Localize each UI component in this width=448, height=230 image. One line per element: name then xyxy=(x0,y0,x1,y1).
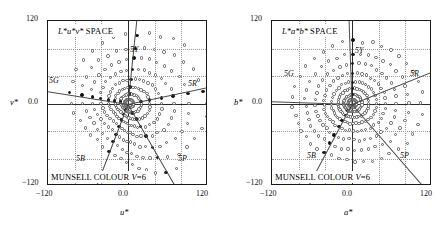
data-point xyxy=(90,66,93,69)
data-point xyxy=(305,135,308,138)
data-point xyxy=(380,157,383,160)
data-point xyxy=(421,90,424,93)
data-point xyxy=(111,128,114,131)
data-point xyxy=(328,84,331,87)
data-point xyxy=(381,59,384,62)
data-point xyxy=(148,57,151,60)
data-point xyxy=(81,102,84,105)
data-point xyxy=(352,138,355,141)
data-point xyxy=(118,135,121,138)
data-point xyxy=(175,167,178,170)
data-point xyxy=(373,145,376,148)
panel-title-symbol: L*a*b* xyxy=(282,26,308,36)
data-point xyxy=(360,72,363,75)
hue-label-5y: 5Y xyxy=(130,45,138,54)
data-point xyxy=(143,46,146,49)
data-point xyxy=(341,74,344,77)
plot-area-lab: 5Y5R5G5B5P L*a*b* SPACE MUNSELL COLOUR V… xyxy=(271,20,431,185)
data-point xyxy=(325,126,328,129)
xaxis-label-luv: u* xyxy=(120,207,129,217)
data-point xyxy=(200,127,203,130)
data-point xyxy=(90,88,93,91)
data-point xyxy=(348,128,351,131)
data-point xyxy=(322,99,325,102)
data-point xyxy=(157,92,160,95)
data-point xyxy=(148,31,151,34)
data-point xyxy=(88,116,91,119)
data-point xyxy=(353,160,356,163)
xtick-min-luv: −120 xyxy=(36,189,53,198)
data-point xyxy=(383,96,386,99)
data-point xyxy=(346,72,349,75)
data-point xyxy=(367,147,370,150)
data-point xyxy=(314,110,317,113)
data-point xyxy=(103,122,106,125)
data-point xyxy=(133,142,136,145)
data-point xyxy=(159,35,162,38)
data-point xyxy=(96,128,99,131)
data-point xyxy=(131,163,134,166)
data-point xyxy=(369,77,372,80)
data-point xyxy=(375,106,378,109)
data-point xyxy=(130,152,133,155)
data-point xyxy=(125,79,128,82)
data-point xyxy=(125,151,128,154)
data-point xyxy=(407,111,410,114)
data-point xyxy=(389,48,392,51)
data-point xyxy=(398,126,401,129)
data-point xyxy=(335,57,338,60)
data-point xyxy=(379,130,382,133)
data-point xyxy=(121,79,124,82)
data-point xyxy=(93,80,96,83)
plot-area-luv: 5Y5R5G5B5P L*u*v* SPACE MUNSELL COLOUR V… xyxy=(47,20,207,185)
data-point xyxy=(146,81,149,84)
yaxis-label-luv: v* xyxy=(10,97,18,107)
data-point xyxy=(345,63,348,66)
data-point xyxy=(367,85,370,88)
data-point xyxy=(106,137,109,140)
data-point xyxy=(380,117,383,120)
data-point xyxy=(121,148,124,151)
ytick-top-lab: 120 xyxy=(250,14,262,23)
data-point xyxy=(297,122,300,125)
data-point xyxy=(380,45,383,48)
data-point xyxy=(360,129,363,132)
data-point xyxy=(290,105,293,108)
data-point xyxy=(316,114,319,117)
data-point xyxy=(101,86,104,89)
data-point xyxy=(307,118,310,121)
data-point xyxy=(357,61,360,64)
data-point xyxy=(372,113,375,116)
data-point xyxy=(291,95,294,98)
data-point xyxy=(138,78,141,81)
data-point xyxy=(303,97,306,100)
data-point xyxy=(186,122,189,125)
panel-title-space: SPACE xyxy=(310,26,338,36)
data-point xyxy=(314,72,317,75)
panel-caption-lab: MUNSELL COLOUR V=6 xyxy=(273,171,372,183)
xtick-max-luv: 120 xyxy=(196,189,208,198)
data-point xyxy=(114,83,117,86)
data-point xyxy=(170,87,173,90)
data-point xyxy=(154,87,157,90)
hue-label-5r: 5R xyxy=(188,79,197,88)
data-point xyxy=(84,126,87,129)
data-point xyxy=(403,84,406,87)
data-point xyxy=(148,156,151,159)
data-point xyxy=(140,56,143,59)
data-point xyxy=(387,152,390,155)
xtick-zero-lab: 0.0 xyxy=(342,189,352,198)
data-point xyxy=(137,68,140,71)
data-point xyxy=(342,137,345,140)
data-point xyxy=(364,62,367,65)
data-point xyxy=(345,158,348,161)
data-point xyxy=(182,60,185,63)
data-point xyxy=(81,84,84,87)
data-point xyxy=(205,115,207,118)
data-point xyxy=(320,65,323,68)
data-point xyxy=(192,67,195,70)
data-point xyxy=(380,72,383,75)
data-point xyxy=(393,115,396,118)
data-point xyxy=(118,81,121,84)
data-point xyxy=(125,58,128,61)
